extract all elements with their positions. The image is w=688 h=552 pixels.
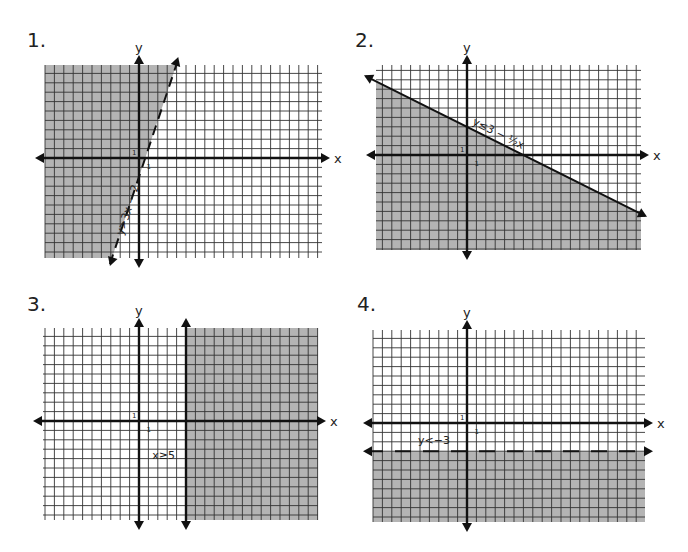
arrowhead-icon [363,446,372,456]
graph-3: xy11x≥5 [33,303,338,530]
arrowhead-icon [33,416,42,426]
arrowhead-icon [462,251,472,260]
arrowhead-icon [134,318,144,327]
arrowhead-icon [644,446,653,456]
arrowhead-icon [181,318,191,327]
inequality-label: x≥5 [152,449,175,462]
y-axis-label: y [135,303,143,318]
inequality-label: y<−3 [418,434,450,447]
shaded-region [376,81,641,250]
arrowhead-icon [462,320,472,329]
graph-2: xy11y≤3 − ½x [364,40,661,260]
x-tick-label: 1 [146,426,150,434]
y-tick-label: 1 [460,414,464,422]
arrowhead-icon [134,259,144,268]
x-axis-label: x [334,151,342,166]
x-tick-label: 1 [474,428,478,436]
y-tick-label: 1 [132,412,136,420]
arrowhead-icon [462,55,472,64]
arrowhead-icon [134,521,144,530]
graph-4: xy11y<−3 [363,305,665,532]
arrowhead-icon [181,521,191,530]
y-axis-label: y [463,305,471,320]
x-axis-label: x [330,414,338,429]
graph-1: xy11y>3x − 2 [35,40,342,268]
x-tick-label: 1 [474,160,478,168]
y-tick-label: 1 [460,146,464,154]
arrowhead-icon [462,523,472,532]
arrowhead-icon [366,150,375,160]
y-axis-label: y [463,40,471,55]
shaded-region [373,451,645,522]
y-tick-label: 1 [132,149,136,157]
graphs-canvas: xy11y>3x − 2xy11y≤3 − ½xxy11x≥5xy11y<−3 [0,0,688,552]
x-tick-label: 1 [146,163,150,171]
arrowhead-icon [640,150,649,160]
arrowhead-icon [35,153,44,163]
x-axis-label: x [653,148,661,163]
y-axis-label: y [135,40,143,55]
arrowhead-icon [134,55,144,64]
arrowhead-icon [363,418,372,428]
x-axis-label: x [657,416,665,431]
arrowhead-icon [644,418,653,428]
arrowhead-icon [321,153,330,163]
arrowhead-icon [317,416,326,426]
